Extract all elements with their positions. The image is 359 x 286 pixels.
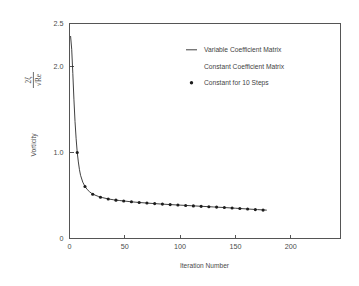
legend-label: Constant Coefficient Matrix [204, 63, 285, 70]
legend-marker-circle [190, 81, 193, 84]
data-marker-constant-10-steps [184, 204, 187, 207]
data-marker-constant-10-steps [223, 206, 226, 209]
y-axis-title-vorticity: Vorticity [30, 133, 38, 157]
y-axis-numerator: 2ζ [24, 77, 33, 84]
data-marker-constant-10-steps [76, 151, 79, 154]
y-tick-label: 2.5 [54, 19, 64, 28]
y-tick-label: 2.0 [54, 62, 64, 71]
data-marker-constant-10-steps [215, 206, 218, 209]
data-marker-constant-10-steps [114, 199, 117, 202]
data-marker-constant-10-steps [138, 201, 141, 204]
data-marker-constant-10-steps [122, 199, 125, 202]
data-marker-constant-10-steps [161, 203, 164, 206]
data-marker-constant-10-steps [107, 197, 110, 200]
data-marker-constant-10-steps [153, 202, 156, 205]
data-marker-constant-10-steps [169, 203, 172, 206]
data-marker-constant-10-steps [192, 204, 195, 207]
x-tick-label: 100 [174, 242, 186, 251]
x-tick-label: 150 [229, 242, 241, 251]
data-marker-constant-10-steps [231, 206, 234, 209]
data-marker-constant-10-steps [91, 193, 94, 196]
x-axis-title: Iteration Number [180, 262, 230, 269]
data-marker-constant-10-steps [207, 205, 210, 208]
legend-label: Constant for 10 Steps [204, 79, 269, 87]
data-marker-constant-10-steps [200, 205, 203, 208]
x-tick-label: 50 [121, 242, 129, 251]
data-marker-constant-10-steps [254, 208, 257, 211]
data-marker-constant-10-steps [130, 200, 133, 203]
figure-container: 05010015020001.02.02.52ζ√ReVorticityIter… [0, 0, 359, 286]
y-tick-label: 0 [60, 234, 64, 243]
data-marker-constant-10-steps [83, 185, 86, 188]
data-marker-constant-10-steps [262, 209, 265, 212]
data-marker-constant-10-steps [246, 207, 249, 210]
data-marker-constant-10-steps [99, 196, 102, 199]
data-marker-constant-10-steps [176, 204, 179, 207]
x-tick-label: 0 [68, 242, 72, 251]
y-axis-title-fraction: 2ζ√Re [24, 72, 43, 88]
x-tick-label: 200 [285, 242, 297, 251]
data-marker-constant-10-steps [145, 202, 148, 205]
data-marker-constant-10-steps [238, 207, 241, 210]
vorticity-convergence-chart: 05010015020001.02.02.52ζ√ReVorticityIter… [0, 0, 359, 286]
legend-label: Variable Coefficient Matrix [204, 46, 282, 53]
y-tick-label: 1.0 [54, 148, 64, 157]
y-axis-denominator: √Re [34, 73, 43, 86]
